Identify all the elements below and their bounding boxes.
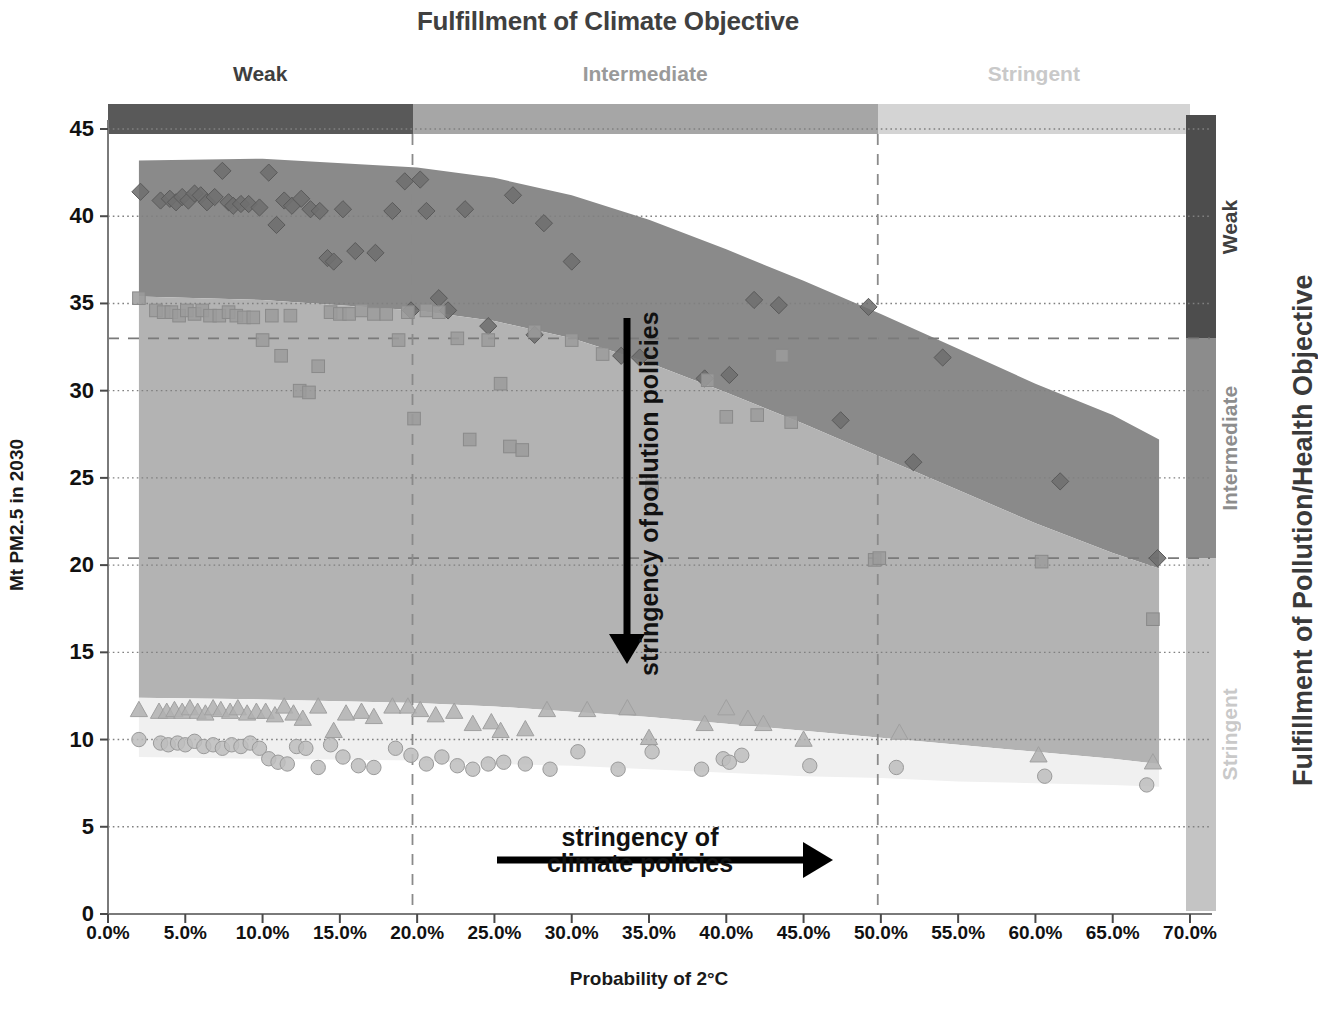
data-point-circle bbox=[299, 741, 313, 755]
data-point-square bbox=[873, 552, 886, 565]
data-point-square bbox=[720, 411, 733, 424]
data-point-circle bbox=[1140, 778, 1154, 792]
data-point-circle bbox=[435, 750, 449, 764]
data-point-square bbox=[565, 334, 578, 347]
y-tick-label: 35 bbox=[42, 290, 94, 316]
annotation-climate-stringency: stringency ofclimate policies bbox=[470, 824, 810, 877]
data-point-square bbox=[256, 334, 269, 347]
data-point-circle bbox=[450, 759, 464, 773]
y-tick-label: 5 bbox=[42, 814, 94, 840]
data-point-square bbox=[275, 349, 288, 362]
data-point-square bbox=[432, 306, 445, 319]
data-point-circle bbox=[1038, 769, 1052, 783]
data-point-circle bbox=[311, 760, 325, 774]
data-point-square bbox=[420, 304, 433, 317]
chart-root: Fulfillment of Climate Objective Weak In… bbox=[0, 0, 1341, 1011]
data-point-circle bbox=[889, 760, 903, 774]
data-point-circle bbox=[466, 762, 480, 776]
data-point-square bbox=[408, 412, 421, 425]
data-point-square bbox=[751, 409, 764, 422]
data-point-square bbox=[355, 304, 368, 317]
data-point-circle bbox=[481, 757, 495, 771]
data-point-square bbox=[504, 440, 517, 453]
data-point-square bbox=[312, 360, 325, 373]
y-tick-label: 40 bbox=[42, 203, 94, 229]
y-tick-label: 25 bbox=[42, 465, 94, 491]
y-tick-label: 30 bbox=[42, 378, 94, 404]
data-point-square bbox=[776, 349, 789, 362]
y-tick-label: 10 bbox=[42, 727, 94, 753]
data-point-square bbox=[303, 386, 316, 399]
data-point-circle bbox=[543, 762, 557, 776]
data-point-circle bbox=[645, 745, 659, 759]
data-point-square bbox=[247, 311, 260, 324]
annotation-pollution-stringency: stringency ofpollution policies bbox=[636, 324, 662, 664]
y-tick-label: 15 bbox=[42, 639, 94, 665]
data-point-square bbox=[701, 374, 714, 387]
data-point-square bbox=[1147, 613, 1160, 626]
data-point-circle bbox=[367, 760, 381, 774]
data-point-circle bbox=[388, 741, 402, 755]
data-point-square bbox=[528, 325, 541, 338]
data-point-square bbox=[343, 308, 356, 321]
y-tick-label: 20 bbox=[42, 552, 94, 578]
data-point-circle bbox=[518, 757, 532, 771]
data-point-square bbox=[380, 308, 393, 321]
data-point-circle bbox=[336, 750, 350, 764]
data-point-circle bbox=[132, 732, 146, 746]
data-point-circle bbox=[497, 755, 511, 769]
data-point-circle bbox=[323, 738, 337, 752]
data-point-square bbox=[402, 306, 415, 319]
data-point-square bbox=[596, 348, 609, 361]
data-point-circle bbox=[280, 757, 294, 771]
data-point-square bbox=[482, 334, 495, 347]
data-point-circle bbox=[694, 762, 708, 776]
annotation-climate-line-1: stringency of bbox=[470, 824, 810, 850]
data-point-circle bbox=[611, 762, 625, 776]
data-point-square bbox=[494, 377, 507, 390]
data-point-circle bbox=[351, 759, 365, 773]
data-point-square bbox=[785, 416, 798, 429]
data-point-square bbox=[463, 433, 476, 446]
data-point-square bbox=[451, 332, 464, 345]
annotation-pollution-line-1: stringency of bbox=[636, 519, 662, 676]
x-tick-label: 70.0% bbox=[1145, 922, 1235, 944]
data-point-circle bbox=[735, 748, 749, 762]
data-point-circle bbox=[404, 748, 418, 762]
annotation-climate-line-2: climate policies bbox=[470, 850, 810, 876]
annotation-pollution-line-2: pollution policies bbox=[636, 312, 662, 518]
data-point-circle bbox=[419, 757, 433, 771]
data-point-square bbox=[133, 292, 146, 305]
data-point-square bbox=[266, 309, 279, 322]
data-point-square bbox=[392, 334, 405, 347]
data-point-square bbox=[516, 444, 529, 457]
data-point-square bbox=[368, 308, 381, 321]
data-point-circle bbox=[571, 745, 585, 759]
y-tick-label: 45 bbox=[42, 116, 94, 142]
data-point-circle bbox=[803, 759, 817, 773]
data-point-square bbox=[284, 309, 297, 322]
data-point-square bbox=[1035, 555, 1048, 568]
